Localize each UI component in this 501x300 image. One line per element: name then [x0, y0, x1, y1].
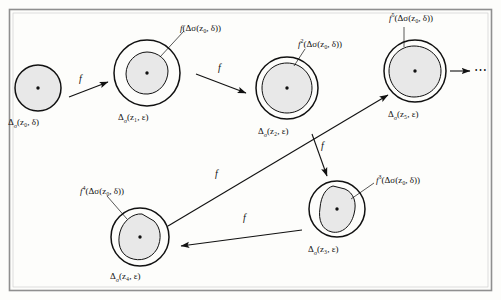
image-label-f4: f4(Δσ(z₀, δ))	[80, 185, 124, 196]
disk-z0-label: Δσ(z₀, δ)	[8, 118, 39, 129]
arrow-label-f-z4-z5: f	[215, 168, 218, 179]
arrow-label-f-z1-z2: f	[218, 62, 221, 73]
ellipsis-continuation: ⋯	[474, 62, 489, 78]
disk-z4-label: Δσ(z₄, ε)	[110, 272, 140, 283]
disk-z2-label: Δσ(z₂, ε)	[258, 127, 288, 138]
disk-z2-center-dot	[285, 86, 288, 89]
disk-z0-center-dot	[36, 86, 39, 89]
image-label-f3: f3(Δσ(z₀, δ))	[376, 174, 420, 185]
image-label-f1: f(Δσ(z₀, δ))	[180, 22, 221, 33]
disk-z0	[15, 65, 61, 111]
arrow-label-f-z3-z4: f	[243, 212, 246, 223]
disk-z5-label: Δσ(z₅, ε)	[388, 110, 418, 121]
disk-z3-center-dot	[335, 207, 338, 210]
diagram-svg	[0, 0, 501, 300]
image-label-f5: f5(Δσ(z₀, δ))	[389, 12, 433, 23]
disk-z4-center-dot	[138, 235, 141, 238]
disk-z1-center-dot	[145, 71, 148, 74]
figure-canvas: Δσ(z₀, δ) Δσ(z₁, ε) Δσ(z₂, ε) Δσ(z₅, ε) …	[0, 0, 501, 300]
arrow-label-f-z2-z3: f	[321, 140, 324, 151]
disk-z1-label: Δσ(z₁, ε)	[118, 113, 148, 124]
arrow-label-f-z0-z1: f	[79, 73, 82, 84]
disk-z5-center-dot	[413, 69, 416, 72]
image-label-f2: f2(Δσ(z₀, δ))	[298, 38, 342, 49]
disk-z3-label: Δσ(z₃, ε)	[308, 245, 338, 256]
